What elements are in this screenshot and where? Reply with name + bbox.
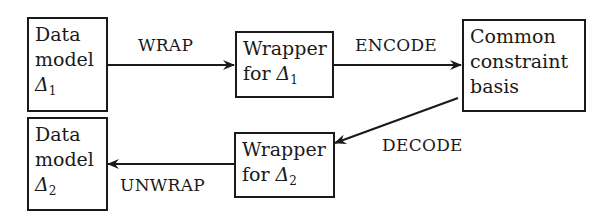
data-model-2-line-2: model xyxy=(35,147,100,172)
wrapper-1-prefix: for xyxy=(243,62,277,84)
delta-symbol: Δ xyxy=(35,173,49,195)
common-basis-line-3: basis xyxy=(470,74,578,99)
common-constraint-basis-box: Common constraint basis xyxy=(462,19,586,112)
subscript: 1 xyxy=(290,73,298,87)
wrapper-1-line-1: Wrapper xyxy=(243,36,326,61)
subscript: 2 xyxy=(49,184,57,198)
data-model-2-symbol: Δ2 xyxy=(35,172,100,204)
data-model-1-box: Data model Δ1 xyxy=(27,17,108,112)
delta-symbol: Δ xyxy=(35,73,49,95)
subscript: 2 xyxy=(289,174,297,188)
data-model-1-line-1: Data xyxy=(35,22,100,47)
common-basis-line-1: Common xyxy=(470,24,578,49)
wrapper-1-line-2: for Δ1 xyxy=(243,61,326,93)
encode-label: ENCODE xyxy=(355,35,437,55)
wrapper-2-line-1: Wrapper xyxy=(242,137,327,162)
decode-label: DECODE xyxy=(382,135,463,155)
delta-symbol: Δ xyxy=(276,163,290,185)
data-model-1-line-2: model xyxy=(35,47,100,72)
common-basis-line-2: constraint xyxy=(470,49,578,74)
data-model-2-line-1: Data xyxy=(35,122,100,147)
wrapper-1-box: Wrapper for Δ1 xyxy=(235,31,334,98)
delta-symbol: Δ xyxy=(277,62,291,84)
data-model-2-box: Data model Δ2 xyxy=(27,117,108,211)
wrapper-2-box: Wrapper for Δ2 xyxy=(234,132,335,198)
unwrap-label: UNWRAP xyxy=(120,175,205,195)
subscript: 1 xyxy=(49,84,57,98)
wrapper-2-line-2: for Δ2 xyxy=(242,162,327,194)
wrap-label: WRAP xyxy=(138,35,193,55)
data-model-1-symbol: Δ1 xyxy=(35,72,100,104)
wrapper-2-prefix: for xyxy=(242,163,276,185)
